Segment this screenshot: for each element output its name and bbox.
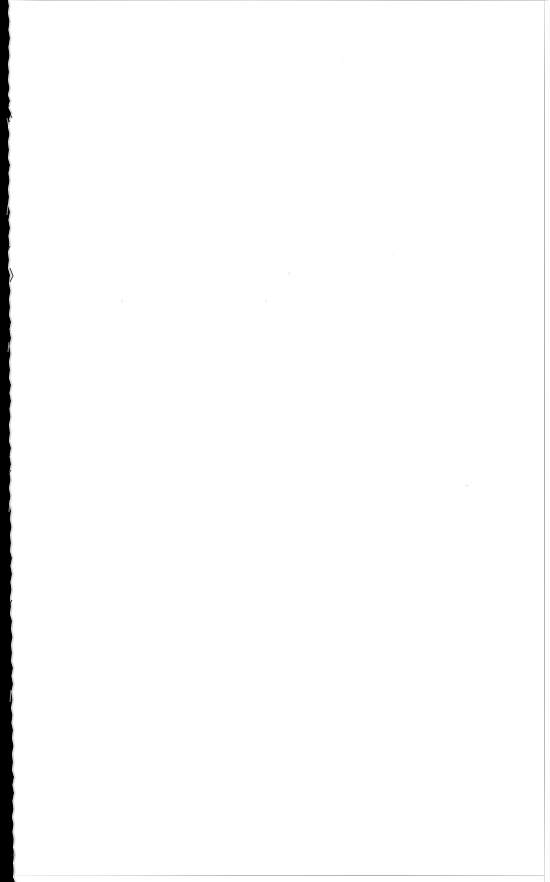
page-top-edge (8, 0, 550, 1)
page-right-edge-falloff (545, 0, 550, 882)
page-right-edge (544, 0, 545, 882)
page-bottom-edge (14, 875, 545, 876)
left-scan-gutter (0, 0, 22, 882)
scanned-document-page (0, 0, 550, 882)
gutter-shape (0, 0, 15, 882)
page-body-text (40, 40, 520, 842)
